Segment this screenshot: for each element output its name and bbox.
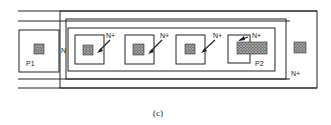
cell-1-contact: [83, 45, 93, 55]
outer-contact: [294, 42, 306, 53]
nplus-label-3: N+: [213, 32, 222, 39]
arrowhead-icon: [238, 36, 245, 41]
p2-label: P2: [255, 60, 264, 67]
layout-diagram: P1 N N+ N+ N+ N+ P2 N+ (c): [0, 0, 331, 125]
nplus-label-1: N+: [106, 32, 115, 39]
nplus-label-4: N+: [252, 32, 261, 39]
n-label: N: [61, 47, 66, 54]
p2-contact: [237, 42, 267, 54]
p1-label: P1: [26, 60, 35, 67]
arrowhead-icon: [97, 48, 103, 53]
figure-caption: (c): [153, 108, 163, 118]
arrowhead-icon: [148, 49, 154, 54]
cell-2-contact: [133, 44, 144, 55]
nplus-label-2: N+: [160, 32, 169, 39]
cell-3-contact: [185, 44, 195, 54]
nplus-outer-label: N+: [291, 70, 300, 77]
p1-contact: [34, 44, 44, 54]
